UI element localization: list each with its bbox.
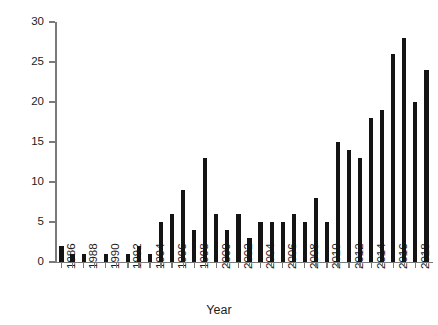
y-axis-tick-label: 0 — [38, 256, 44, 268]
x-axis-tick — [337, 263, 338, 268]
y-axis-tick-label: 25 — [31, 56, 44, 68]
bar — [380, 110, 384, 262]
bar — [303, 222, 307, 262]
bar — [104, 254, 108, 262]
x-axis-tick — [348, 263, 349, 268]
bar — [402, 38, 406, 262]
x-axis-tick — [61, 263, 62, 268]
x-axis-tick — [194, 263, 195, 268]
x-axis-tick — [160, 263, 161, 268]
x-axis-tick — [149, 263, 150, 268]
x-axis-tick — [293, 263, 294, 268]
y-axis-tick: 0 — [49, 261, 55, 262]
bar — [126, 254, 130, 262]
bar — [281, 222, 285, 262]
y-axis-tick-label: 5 — [38, 216, 44, 228]
bar — [347, 150, 351, 262]
x-axis-tick — [183, 263, 184, 268]
bar — [391, 54, 395, 262]
bar — [59, 246, 63, 262]
bar — [369, 118, 373, 262]
bar — [170, 214, 174, 262]
y-axis-tick: 20 — [49, 101, 55, 102]
bar — [413, 102, 417, 262]
bar — [270, 222, 274, 262]
y-axis-tick: 5 — [49, 221, 55, 222]
x-axis-tick — [127, 263, 128, 268]
bar — [225, 230, 229, 262]
bar — [258, 222, 262, 262]
bar — [159, 222, 163, 262]
x-axis-tick — [83, 263, 84, 268]
bar — [247, 238, 251, 262]
x-axis-tick — [371, 263, 372, 268]
y-axis-tick: 15 — [49, 141, 55, 142]
bar — [358, 158, 362, 262]
bar — [214, 214, 218, 262]
x-axis-tick — [415, 263, 416, 268]
x-axis-tick — [138, 263, 139, 268]
bar — [314, 198, 318, 262]
bar — [336, 142, 340, 262]
bar — [203, 158, 207, 262]
x-axis-tick — [315, 263, 316, 268]
x-axis-tick — [205, 263, 206, 268]
x-axis-tick — [94, 263, 95, 268]
y-axis-tick-label: 20 — [31, 96, 44, 108]
bar — [82, 254, 86, 262]
plot-area — [56, 22, 432, 262]
bar — [292, 214, 296, 262]
bar — [236, 214, 240, 262]
x-axis-tick — [282, 263, 283, 268]
x-axis-tick — [359, 263, 360, 268]
bar — [424, 70, 428, 262]
x-axis-tick — [105, 263, 106, 268]
bar-chart: 051015202530 198619881990199219941996199… — [0, 0, 438, 325]
bar — [148, 254, 152, 262]
x-axis-tick — [393, 263, 394, 268]
x-axis-tick — [326, 263, 327, 268]
x-axis-tick — [249, 263, 250, 268]
x-axis-title: Year — [0, 303, 438, 317]
x-axis-tick — [171, 263, 172, 268]
bar — [181, 190, 185, 262]
y-axis-tick-label: 15 — [31, 136, 44, 148]
bar — [70, 254, 74, 262]
x-axis-tick — [426, 263, 427, 268]
y-axis-tick-label: 30 — [31, 16, 44, 28]
y-axis-tick: 30 — [49, 21, 55, 22]
y-axis-tick: 25 — [49, 61, 55, 62]
x-axis-tick — [116, 263, 117, 268]
x-axis-tick — [404, 263, 405, 268]
x-axis-tick — [216, 263, 217, 268]
bar — [325, 222, 329, 262]
x-axis-tick — [227, 263, 228, 268]
bar — [137, 246, 141, 262]
x-axis-tick — [72, 263, 73, 268]
x-axis-tick — [304, 263, 305, 268]
x-axis-tick — [238, 263, 239, 268]
x-axis-tick — [271, 263, 272, 268]
x-axis-tick — [260, 263, 261, 268]
x-axis-tick — [382, 263, 383, 268]
bar — [192, 230, 196, 262]
y-axis-tick-label: 10 — [31, 176, 44, 188]
y-axis-tick: 10 — [49, 181, 55, 182]
